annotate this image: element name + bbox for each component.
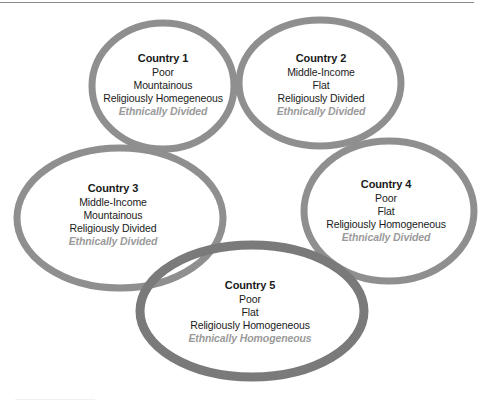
ethnicity-text: Ethnically Homogeneous [188, 332, 311, 345]
ethnicity-text: Ethnically Divided [103, 105, 223, 118]
religion-text: Religiously Divided [277, 92, 366, 105]
country-3-label: Country 3 Middle-Income Mountainous Reli… [69, 182, 158, 248]
terrain-text: Flat [188, 306, 311, 319]
income-text: Middle-Income [277, 66, 366, 79]
income-text: Poor [103, 66, 223, 79]
ethnicity-text: Ethnically Divided [69, 235, 158, 248]
income-text: Middle-Income [69, 196, 158, 209]
income-text: Poor [326, 192, 446, 205]
country-2-label: Country 2 Middle-Income Flat Religiously… [277, 52, 366, 118]
religion-text: Religiously Homogeneous [188, 319, 311, 332]
terrain-text: Flat [277, 79, 366, 92]
country-title: Country 4 [326, 178, 446, 191]
ethnicity-text: Ethnically Divided [277, 105, 366, 118]
country-title: Country 1 [103, 52, 223, 65]
country-1-label: Country 1 Poor Mountainous Religiously H… [103, 52, 223, 118]
country-title: Country 2 [277, 52, 366, 65]
country-4-label: Country 4 Poor Flat Religiously Homogene… [326, 178, 446, 244]
religion-text: Religiously Homegeneous [103, 92, 223, 105]
terrain-text: Mountainous [69, 209, 158, 222]
income-text: Poor [188, 293, 311, 306]
country-title: Country 5 [188, 279, 311, 292]
country-5-label: Country 5 Poor Flat Religiously Homogene… [188, 279, 311, 345]
religion-text: Religiously Divided [69, 222, 158, 235]
country-title: Country 3 [69, 182, 158, 195]
ethnicity-text: Ethnically Divided [326, 231, 446, 244]
terrain-text: Flat [326, 205, 446, 218]
religion-text: Religiously Homogeneous [326, 218, 446, 231]
terrain-text: Mountainous [103, 79, 223, 92]
